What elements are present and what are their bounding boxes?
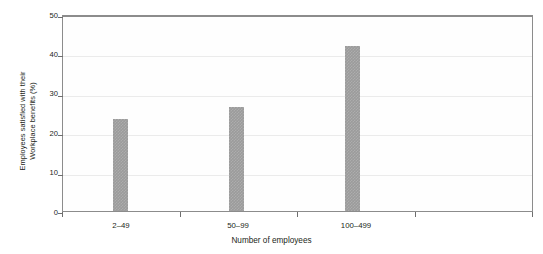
y-tick-label-0: 0	[36, 209, 58, 217]
x-tick-mark-4	[532, 212, 533, 217]
y-axis-tick-labels: 50 40 30 20 10 0	[34, 0, 58, 254]
bar-2-49[interactable]	[113, 119, 128, 211]
bar-chart-figure: Employees satisfied with their Workplace…	[0, 0, 543, 254]
gridline-40	[63, 56, 532, 57]
x-tick-label-100-499: 100–499	[311, 221, 401, 231]
gridline-30	[63, 96, 532, 97]
x-tick-label-2-49: 2–49	[76, 221, 166, 231]
y-tick-mark-20	[58, 135, 63, 136]
plot-area	[62, 15, 533, 212]
y-tick-label-30: 30	[36, 90, 58, 98]
y-axis-title-line-1: Employees satisfied with their	[18, 31, 28, 211]
plot-inner	[63, 17, 532, 211]
gridline-20	[63, 135, 532, 136]
y-tick-label-10: 10	[36, 169, 58, 177]
y-tick-mark-40	[58, 56, 63, 57]
bar-100-499[interactable]	[345, 46, 360, 211]
y-tick-label-40: 40	[36, 51, 58, 59]
y-tick-mark-50	[58, 17, 63, 18]
bar-50-99[interactable]	[229, 107, 244, 211]
x-tick-mark-3	[415, 212, 416, 217]
y-tick-mark-30	[58, 96, 63, 97]
gridline-10	[63, 175, 532, 176]
x-tick-label-50-99: 50–99	[193, 221, 283, 231]
y-tick-label-50: 50	[36, 12, 58, 20]
x-tick-mark-2	[297, 212, 298, 217]
y-tick-label-20: 20	[36, 130, 58, 138]
x-tick-mark-1	[180, 212, 181, 217]
y-tick-mark-10	[58, 175, 63, 176]
x-axis-title: Number of employees	[0, 236, 543, 246]
x-tick-mark-0	[62, 212, 63, 217]
